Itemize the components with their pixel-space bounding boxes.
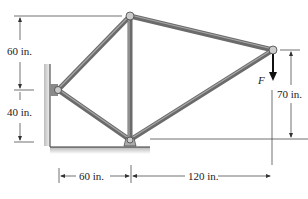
member-left-top (58, 16, 130, 90)
member-left-bottom (58, 90, 130, 140)
pin-left (55, 87, 62, 94)
dim-60in-horizontal: 60 in. (79, 170, 104, 182)
truss-members (58, 15, 273, 140)
load-arrow (269, 54, 277, 81)
ground-support (50, 147, 150, 154)
member-top-right (130, 16, 273, 50)
wall-support (44, 64, 50, 147)
load-label: F (257, 74, 265, 86)
pin-right (269, 46, 277, 54)
pin-bottom (127, 137, 133, 143)
pin-joints (50, 12, 277, 146)
dim-60in-vertical: 60 in. (7, 45, 32, 57)
dim-70in-vertical: 70 in. (277, 88, 302, 100)
pin-top (126, 12, 134, 20)
dim-120in-horizontal: 120 in. (188, 170, 219, 182)
dimension-lines (14, 16, 308, 183)
dim-40in-vertical: 40 in. (7, 106, 32, 118)
member-bottom-right (130, 50, 273, 140)
truss-diagram: F 60 in. 40 in. 70 in. 60 in. 120 in. (0, 0, 308, 199)
